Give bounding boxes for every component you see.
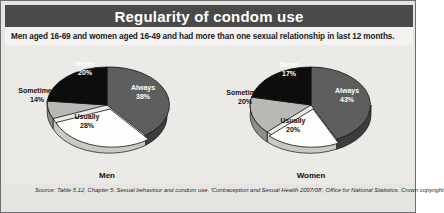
source-note: Source: Table 5.12, Chapter 5: Sexual be…: [5, 184, 444, 193]
pie-men-label-usually: Usually 28%: [65, 113, 109, 130]
pie-men-svg: [12, 47, 202, 167]
pie-women-category-label: Women: [209, 171, 413, 180]
pie-men-category-label: Men: [5, 171, 209, 180]
pie-men-label-never: Never 20%: [63, 60, 107, 77]
footer-bar: Source: Table 5.12, Chapter 5: Sexual be…: [5, 184, 413, 209]
pie-women-svg: [216, 47, 406, 167]
pie-men-label-always: Always 38%: [121, 84, 165, 101]
title-bar: Regularity of condom use: [5, 5, 413, 27]
page-title: Regularity of condom use: [115, 8, 304, 25]
pie-chart-women: Always 43% Usually 20% Sometimes 20% Nev…: [209, 45, 413, 184]
pie-women-label-never: Never 17%: [267, 61, 311, 78]
charts-area: Always 38% Usually 28% Sometimes 14% Nev…: [5, 45, 413, 184]
pie-women-label-sometimes: Sometimes 20%: [219, 89, 271, 106]
subtitle-bar: Men aged 16-69 and women aged 16-49 and …: [5, 27, 413, 45]
pie-chart-men: Always 38% Usually 28% Sometimes 14% Nev…: [5, 45, 209, 184]
pie-women-label-always: Always 43%: [325, 87, 369, 104]
chart-subtitle: Men aged 16-69 and women aged 16-49 and …: [5, 32, 395, 41]
pie-men-label-sometimes: Sometimes 14%: [11, 87, 63, 104]
pie-women-label-usually: Usually 20%: [271, 117, 315, 134]
